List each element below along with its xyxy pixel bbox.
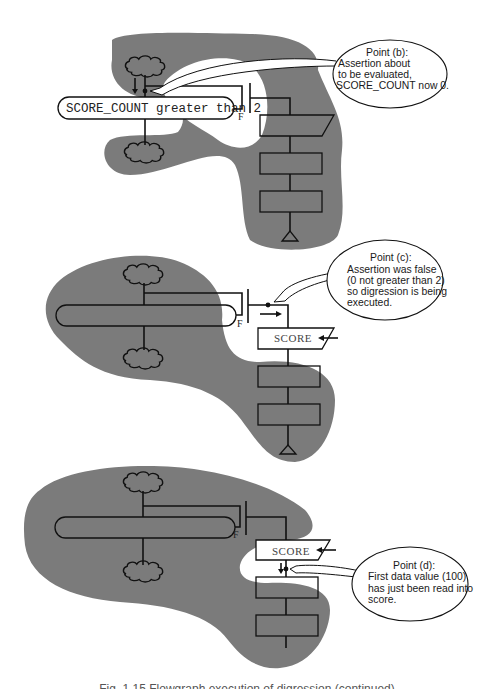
callout-d-line: First data value (100) (368, 571, 466, 582)
callout-c-line: executed. (347, 297, 392, 308)
callout-d-line: has just been read into (368, 583, 473, 594)
flow-arrow-icon (278, 569, 284, 574)
callout-b-line: SCORE_COUNT now 0. (336, 80, 449, 91)
assertion-text: SCORE_COUNT greater than 2 (66, 102, 261, 116)
execution-point-dot (143, 89, 148, 94)
figure-canvas: SCORE_COUNT greater than 2 F Point (b): … (0, 0, 494, 689)
execution-point-dot (266, 303, 271, 308)
panel-d: F SCORE Point (d): First data value (100… (24, 466, 473, 668)
callout-c-line: (0 not greater than 2) (347, 275, 445, 286)
flow-arrow-icon (276, 311, 282, 317)
figure-caption: Fig. 1.15 Flowgraph execution of digress… (0, 680, 494, 689)
panel-c: F SCORE Point (c): Assertion was false (… (46, 240, 447, 462)
false-label-c: F (237, 318, 243, 329)
input-label-d: SCORE (272, 545, 310, 557)
callout-d-title: Point (d): (393, 560, 435, 571)
false-label-b: F (238, 111, 244, 122)
input-label-c: SCORE (274, 332, 312, 344)
false-label-d: F (233, 529, 239, 540)
callout-b-line: Assertion about (338, 58, 410, 69)
callout-b-line: to be evaluated, (338, 69, 412, 80)
execution-point-dot (284, 567, 289, 572)
callout-b-title: Point (b): (366, 47, 408, 58)
callout-c-title: Point (c): (370, 252, 412, 263)
callout-c-line: Assertion was false (347, 264, 437, 275)
panel-b: SCORE_COUNT greater than 2 F Point (b): … (58, 33, 449, 250)
shaded-region-d (24, 466, 330, 668)
callout-d-line: score. (368, 594, 396, 605)
callout-c-line: so digression is being (347, 286, 447, 297)
